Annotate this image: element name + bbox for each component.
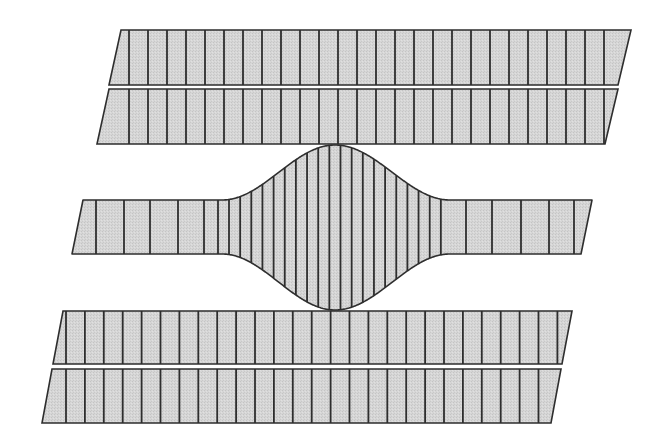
band-fill xyxy=(109,30,631,85)
bottom-band-2 xyxy=(42,369,561,423)
middle-band-with-bulge xyxy=(72,145,592,310)
top-band-2 xyxy=(97,89,618,144)
band-fill xyxy=(42,369,561,423)
top-band-1 xyxy=(109,30,631,85)
diagram-canvas xyxy=(0,0,659,445)
middle-band-with-bulge xyxy=(72,145,592,310)
band-diagram xyxy=(0,0,659,445)
bottom-band-1 xyxy=(53,311,572,364)
